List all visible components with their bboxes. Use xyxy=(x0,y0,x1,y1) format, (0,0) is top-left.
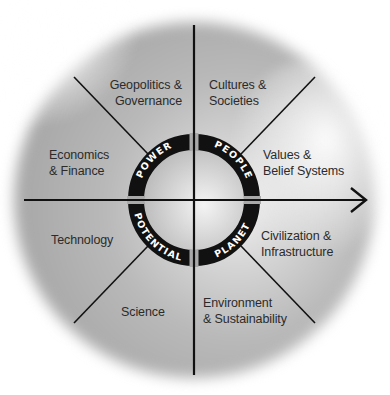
sector-label-geopolitics: Geopolitics & Governance xyxy=(103,77,182,109)
sector-label-economics: Economics & Finance xyxy=(49,147,109,179)
sector-label-environment: Environment & Sustainability xyxy=(203,295,287,327)
sector-label-values: Values & Belief Systems xyxy=(263,147,344,179)
sector-label-civilization: Civilization & Infrastructure xyxy=(261,228,333,260)
sector-label-cultures: Cultures & Societies xyxy=(209,77,266,109)
sector-label-science: Science xyxy=(121,304,165,320)
sector-label-technology: Technology xyxy=(51,232,113,248)
